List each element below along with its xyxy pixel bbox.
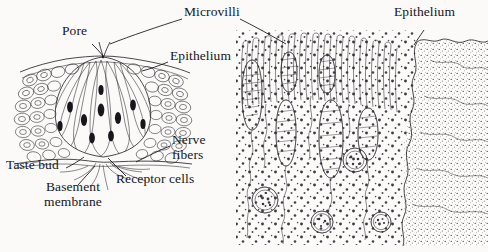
label-microvilli: Microvilli (184, 4, 240, 19)
label-basement-membrane: Basement membrane (30, 179, 116, 209)
label-nerve-fibers-line1: Nerve (172, 132, 205, 147)
taste-bud-figure: Pore Microvilli Epithelium Epithelium Ne… (0, 0, 488, 252)
right-panel-artwork (236, 30, 488, 246)
label-basement-membrane-line2: membrane (44, 194, 102, 209)
label-epithelium-left: Epithelium (170, 48, 231, 63)
label-nerve-fibers-line2: fibers (172, 147, 203, 162)
label-basement-membrane-line1: Basement (46, 179, 100, 194)
label-pore: Pore (62, 23, 87, 38)
label-epithelium-right: Epithelium (394, 4, 455, 19)
label-taste-bud: Taste bud (6, 157, 59, 172)
label-nerve-fibers: Nerve fibers (172, 132, 228, 162)
label-receptor-cells: Receptor cells (116, 171, 194, 186)
